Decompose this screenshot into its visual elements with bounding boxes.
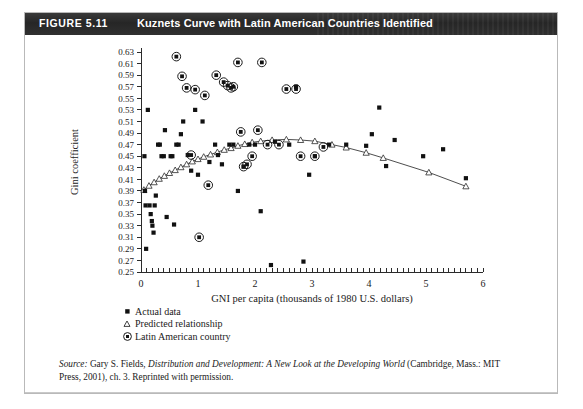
- actual-data-point: [153, 203, 157, 207]
- actual-data-point: [181, 119, 185, 123]
- x-axis-tick-label: 6: [481, 278, 486, 289]
- actual-data-point: [151, 231, 155, 235]
- y-axis-tick-label: 0.43: [118, 163, 134, 173]
- actual-data-point: [421, 154, 425, 158]
- latin-american-point: [294, 87, 298, 91]
- circled-dot-icon: [119, 331, 135, 342]
- y-axis-tick-label: 0.29: [118, 244, 134, 254]
- actual-data-point: [393, 138, 397, 142]
- predicted-point-marker: [151, 179, 157, 185]
- latin-american-point: [189, 153, 193, 157]
- y-axis-tick-label: 0.47: [118, 140, 134, 150]
- filled-square-icon: [119, 307, 135, 316]
- latin-american-point: [260, 61, 264, 65]
- predicted-point-marker: [195, 156, 201, 162]
- x-axis-tick-label: 3: [310, 278, 315, 289]
- latin-american-point: [174, 55, 178, 59]
- actual-data-point: [177, 143, 181, 147]
- actual-data-point: [193, 108, 197, 112]
- actual-data-point: [200, 119, 204, 123]
- actual-data-point: [207, 160, 211, 164]
- actual-data-point: [149, 212, 153, 216]
- y-axis-tick-label: 0.41: [118, 175, 134, 185]
- y-axis-tick-label: 0.31: [118, 232, 134, 242]
- x-axis-title: GNI per capita (thousands of 1980 U.S. d…: [211, 293, 413, 305]
- actual-data-point: [143, 189, 147, 193]
- actual-data-point: [370, 132, 374, 136]
- latin-american-point: [313, 154, 317, 158]
- latin-american-point: [256, 128, 260, 132]
- actual-data-point: [253, 143, 257, 147]
- actual-data-point: [146, 108, 150, 112]
- actual-data-point: [150, 224, 154, 228]
- actual-data-point: [247, 143, 251, 147]
- actual-data-point: [216, 153, 220, 157]
- actual-data-point: [144, 247, 148, 251]
- y-axis-tick-label: 0.59: [118, 70, 134, 80]
- actual-data-point: [170, 154, 174, 158]
- source-book-title: Distribution and Development: A New Look…: [148, 359, 405, 369]
- actual-data-point: [301, 259, 305, 263]
- y-axis-tick-label: 0.63: [118, 47, 134, 57]
- actual-data-point: [227, 143, 231, 147]
- y-axis-tick-label: 0.35: [118, 209, 134, 219]
- latin-american-point: [236, 61, 240, 65]
- predicted-point-marker: [146, 183, 152, 189]
- latin-american-point: [203, 94, 207, 98]
- open-triangle-icon: [119, 319, 135, 329]
- y-axis-tick-label: 0.51: [118, 117, 134, 127]
- actual-data-point: [441, 147, 445, 151]
- actual-data-point: [269, 263, 273, 267]
- actual-data-point: [231, 143, 235, 147]
- y-axis-tick-label: 0.55: [118, 94, 134, 104]
- actual-data-point: [220, 162, 224, 166]
- latin-american-point: [214, 73, 218, 77]
- y-axis-tick-label: 0.61: [118, 59, 134, 69]
- actual-data-point: [259, 209, 263, 213]
- y-axis-tick-label: 0.49: [118, 128, 134, 138]
- latin-american-point: [239, 130, 243, 134]
- actual-data-point: [158, 143, 162, 147]
- actual-data-point: [189, 169, 193, 173]
- actual-data-point: [196, 173, 200, 177]
- actual-data-point: [364, 144, 368, 148]
- legend-item-latin-american-country: Latin American country: [119, 330, 379, 343]
- latin-american-point: [193, 88, 197, 92]
- actual-data-point: [172, 222, 176, 226]
- y-axis-tick-label: 0.45: [118, 151, 134, 161]
- actual-data-point: [186, 153, 190, 157]
- actual-data-point: [464, 176, 468, 180]
- latin-american-point: [197, 235, 201, 239]
- latin-american-point: [277, 143, 281, 147]
- actual-data-point: [213, 143, 217, 147]
- latin-american-point: [322, 145, 326, 149]
- source-prefix: Source:: [59, 359, 88, 369]
- actual-data-point: [147, 203, 151, 207]
- actual-data-point: [179, 132, 183, 136]
- actual-data-point: [142, 154, 146, 158]
- source-note: Source: Gary S. Fields, Distribution and…: [59, 358, 521, 383]
- actual-data-point: [377, 105, 381, 109]
- y-axis-tick-label: 0.53: [118, 105, 134, 115]
- latin-american-point: [245, 162, 249, 166]
- latin-american-point: [284, 87, 288, 91]
- footer-divider: [25, 392, 557, 393]
- x-axis-tick-label: 5: [424, 278, 429, 289]
- y-axis-tick-label: 0.39: [118, 186, 134, 196]
- actual-data-point: [163, 128, 167, 132]
- chart-legend: Actual data Predicted relationship Latin…: [119, 305, 379, 343]
- latin-american-point: [185, 86, 189, 90]
- predicted-relationship-line: [144, 139, 466, 189]
- legend-item-actual-data: Actual data: [119, 305, 379, 318]
- latin-american-point: [250, 154, 254, 158]
- latin-american-point: [299, 154, 303, 158]
- actual-data-point: [143, 203, 147, 207]
- y-axis-title: Gini coefficient: [69, 129, 80, 195]
- x-axis-tick-label: 1: [196, 278, 201, 289]
- x-axis-tick-label: 4: [367, 278, 372, 289]
- legend-label-predicted-relationship: Predicted relationship: [135, 318, 222, 329]
- actual-data-point: [165, 215, 169, 219]
- actual-data-point: [236, 189, 240, 193]
- y-axis-tick-label: 0.25: [118, 267, 134, 277]
- latin-american-point: [180, 74, 184, 78]
